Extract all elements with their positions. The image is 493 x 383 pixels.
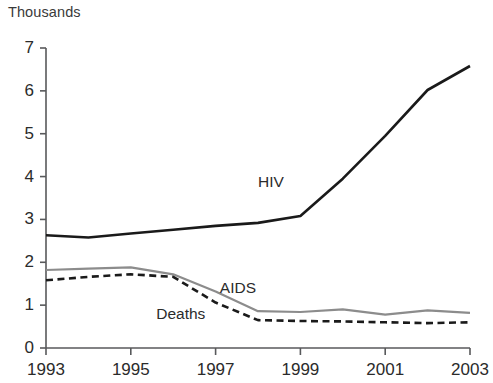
series-label-aids: AIDS: [220, 279, 256, 297]
x-axis-tick-label: 1999: [270, 360, 330, 380]
y-axis-tick-label: 3: [12, 209, 34, 229]
y-axis-tick-label: 5: [12, 124, 34, 144]
x-axis-tick-label: 1997: [186, 360, 246, 380]
x-axis-tick-label: 1995: [101, 360, 161, 380]
x-axis-tick-label: 1993: [16, 360, 76, 380]
y-axis-tick-label: 6: [12, 81, 34, 101]
y-axis-tick-label: 2: [12, 252, 34, 272]
series-line-deaths: [46, 274, 470, 323]
y-axis-tick-label: 4: [12, 167, 34, 187]
x-axis-tick-label: 2001: [355, 360, 415, 380]
chart-series: [46, 66, 470, 323]
series-line-hiv: [46, 66, 470, 237]
y-axis-tick-label: 1: [12, 295, 34, 315]
x-axis-tick-label: 2003: [440, 360, 493, 380]
series-label-hiv: HIV: [258, 173, 284, 191]
y-axis-tick-label: 0: [12, 338, 34, 358]
y-axis-tick-label: 7: [12, 38, 34, 58]
series-label-deaths: Deaths: [156, 305, 205, 323]
